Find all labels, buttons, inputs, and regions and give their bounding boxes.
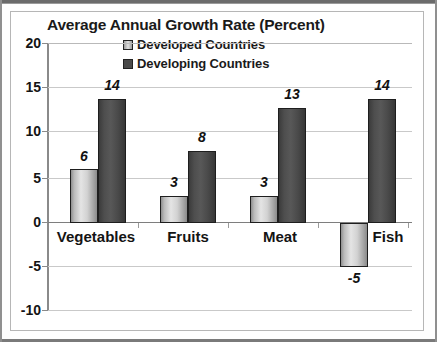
y-axis-labels: 20 15 10 5 0 -5 -10 bbox=[0, 0, 41, 342]
y-tick-label-20: 20 bbox=[25, 35, 41, 51]
chart-figure: Average Annual Growth Rate (Percent) Dev… bbox=[0, 0, 437, 342]
value-label-developing-meat: 13 bbox=[268, 86, 316, 102]
bar-developing-fish[interactable] bbox=[368, 99, 396, 223]
chart-title: Average Annual Growth Rate (Percent) bbox=[47, 16, 325, 34]
x-axis-label-fish: Fish bbox=[360, 228, 416, 245]
bar-developed-fruits[interactable] bbox=[160, 196, 188, 223]
value-label-developed-vegetables: 6 bbox=[60, 148, 108, 164]
x-axis-label-vegetables: Vegetables bbox=[48, 228, 144, 245]
y-tick-label-neg5: -5 bbox=[29, 258, 41, 274]
gridline-20 bbox=[48, 43, 412, 44]
value-label-developed-meat: 3 bbox=[240, 174, 288, 190]
gridline-neg10 bbox=[48, 310, 412, 311]
y-tick-label-neg10: -10 bbox=[21, 302, 41, 318]
bar-developing-meat[interactable] bbox=[278, 108, 306, 223]
x-axis-tick-2 bbox=[228, 223, 229, 228]
bar-developed-meat[interactable] bbox=[250, 196, 278, 223]
figure-top-border-shadow bbox=[0, 3, 437, 4]
plot-area: 6 14 3 8 3 13 -5 14 bbox=[48, 43, 412, 310]
x-axis-label-meat: Meat bbox=[240, 228, 320, 245]
value-label-developing-fish: 14 bbox=[358, 77, 406, 93]
y-tick-label-10: 10 bbox=[25, 123, 41, 139]
value-label-developing-vegetables: 14 bbox=[88, 77, 136, 93]
y-tick-label-5: 5 bbox=[33, 170, 41, 186]
y-tick-label-0: 0 bbox=[33, 214, 41, 230]
value-label-developing-fruits: 8 bbox=[178, 129, 226, 145]
y-tick-label-15: 15 bbox=[25, 79, 41, 95]
value-label-developed-fruits: 3 bbox=[150, 174, 198, 190]
value-label-developed-fish: -5 bbox=[330, 270, 378, 286]
bar-developed-vegetables[interactable] bbox=[70, 169, 98, 223]
x-axis-label-fruits: Fruits bbox=[148, 228, 228, 245]
